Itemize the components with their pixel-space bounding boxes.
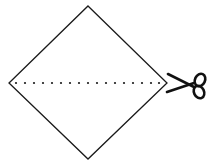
diagram-canvas: Square paper rotated as a diamond, with … <box>0 0 213 161</box>
scissors-icon <box>167 72 207 100</box>
diagram-svg <box>0 0 213 161</box>
